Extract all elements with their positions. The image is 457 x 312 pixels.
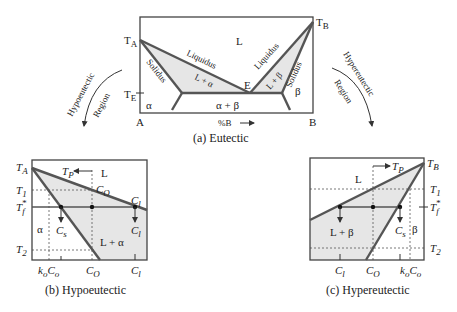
hyper-tf-label: Tf* <box>430 198 441 216</box>
hypo-cs-label: Cs <box>56 224 67 239</box>
tb-label: TB <box>316 16 329 31</box>
hyper-l-label: L <box>355 173 362 185</box>
hypereutectic-caption: (c) Hypereutectic <box>326 283 410 297</box>
hyper-tp-label: TP <box>392 160 404 175</box>
hypo-cl-axis-label: Cl <box>131 264 141 279</box>
hypo-l-alpha-label: L + α <box>100 236 124 248</box>
hypoeutectic-region-label: Hypoeutectic Region <box>65 70 122 126</box>
solvus-right-line <box>282 93 290 110</box>
hyper-cs-label: Cs <box>395 224 406 239</box>
eutectic-diagram: TA TB TE L Liquidus Liquidus Solidus Sol… <box>124 16 329 145</box>
hypo-tp-label: TP <box>62 165 74 180</box>
l-label: L <box>236 35 243 47</box>
hypo-t2-label: T2 <box>16 243 27 258</box>
svg-text:Hypoeutectic: Hypoeutectic <box>65 71 96 118</box>
ta-label: TA <box>124 34 138 49</box>
hypo-l-label: L <box>101 167 108 179</box>
e-label: E <box>244 79 251 91</box>
hyper-l-beta-label: L + β <box>330 226 354 238</box>
hypo-koco-axis-label: koCo <box>38 264 60 279</box>
b-axis-label: B <box>309 116 316 128</box>
co-point <box>90 205 94 209</box>
percent-b-label: %B <box>218 118 232 128</box>
hypoeutectic-caption: (b) Hypoeutectic <box>45 283 126 297</box>
hyper-t1-label: T1 <box>430 183 441 198</box>
hypo-ta-label: TA <box>16 161 28 176</box>
eutectic-caption: (a) Eutectic <box>193 131 249 145</box>
hyper-t2-label: T2 <box>430 242 441 257</box>
alpha-beta-label: α + β <box>216 99 239 111</box>
co-point <box>371 205 375 209</box>
hyper-tb-label: TB <box>427 157 439 172</box>
phase-diagram-figure: TA TB TE L Liquidus Liquidus Solidus Sol… <box>0 0 457 312</box>
hypoeutectic-diagram: TA T1 Tf* T2 TP L CO Cl Cs Cl α L + α ko… <box>16 160 147 297</box>
a-axis-label: A <box>136 116 144 128</box>
hypereutectic-region-label: Hypereutectic Region <box>332 50 377 126</box>
beta-label: β <box>295 85 301 97</box>
hyper-beta-label: β <box>412 223 418 235</box>
hypo-t1-label: T1 <box>16 184 27 199</box>
hypo-alpha-label: α <box>37 223 43 235</box>
svg-text:Region: Region <box>332 78 355 106</box>
hypo-tf-label: Tf* <box>16 198 27 216</box>
alpha-label: α <box>146 99 152 111</box>
hyper-cl-axis-label: Cl <box>335 264 345 279</box>
hyper-koco-axis-label: koCo <box>400 264 422 279</box>
solvus-left-line <box>172 93 182 110</box>
svg-text:Region: Region <box>91 91 112 119</box>
hyper-co-axis-label: CO <box>366 264 380 279</box>
te-label: TE <box>124 88 137 103</box>
hypo-co-axis-label: CO <box>86 264 100 279</box>
hypereutectic-diagram: TB T1 Tf* T2 TP L Cs β L + β Cl CO koCo … <box>310 157 441 297</box>
